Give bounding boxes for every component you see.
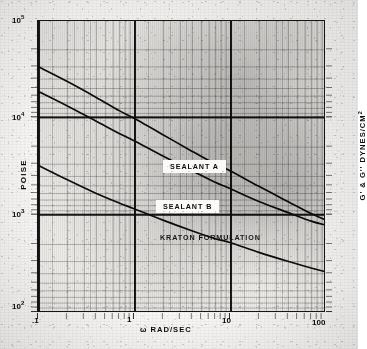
y-tick-label-1e3: 103 [12,208,24,219]
y-tick-base: 10 [12,16,21,25]
right-axis-tickmarks [326,20,332,312]
y-tick-base: 10 [12,113,21,122]
y-tick-label-1e2: 102 [12,300,24,311]
y-tick-base: 10 [12,210,21,219]
curve-label-sealant-b: SEALANT B [156,200,219,213]
y-axis-right-exponent: 2 [357,110,363,114]
y-axis-title-right: G' & G'' DYNES/CM2 [357,95,367,215]
y-tick-exponent: 2 [21,300,24,306]
bottom-axis-tickmarks [37,313,325,319]
x-tick-label-0-1: .1 [32,316,39,325]
y-tick-exponent: 5 [21,14,24,20]
y-tick-exponent: 4 [21,111,24,117]
curve-label-sealant-a: SEALANT A [163,160,226,173]
y-axis-right-text: G' & G'' DYNES/CM [358,114,367,200]
curve-kraton-formulation [38,165,325,272]
x-axis-title: ω RAD/SEC [140,325,192,334]
x-tick-label-10: 10 [222,316,231,325]
y-tick-label-1e4: 104 [12,111,24,122]
curve-sealant-a [38,67,325,221]
curve-label-kraton-formulation: KRATON FORMULATION [160,233,261,242]
y-tick-label-1e5: 105 [12,14,24,25]
y-axis-title-left: POISE [19,145,28,205]
x-tick-label-100: 100 [312,318,325,327]
y-tick-base: 10 [12,302,21,311]
x-tick-label-1: 1 [127,315,131,324]
y-tick-exponent: 3 [21,208,24,214]
